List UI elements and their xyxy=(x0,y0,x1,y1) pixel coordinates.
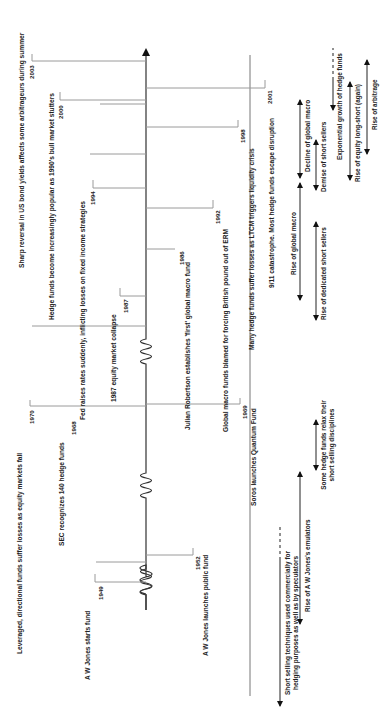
trend-relax-short-selling-label: Some hedge funds relax their short selli… xyxy=(320,395,336,495)
trend-equity-long-short-label: Rise of equity long-short (again) xyxy=(354,84,362,182)
trend-decline-global-macro-label: Decline of global macro xyxy=(304,100,312,172)
trend-rise-arbitrage-label: Rise of arbitrage xyxy=(371,80,379,130)
trend-dedicated-short-sellers-label: Rise of dedicated short sellers xyxy=(320,227,328,320)
trend-arrows xyxy=(0,0,380,720)
trend-jones-emulators-label: Rise of A W Jones's emulators xyxy=(304,519,312,612)
trend-demise-short-sellers-label: Demise of short sellers xyxy=(320,122,328,192)
trend-rise-global-macro-label: Rise of global macro xyxy=(290,212,298,275)
timeline-diagram: A W Jones starts fund 1949 SEC recognize… xyxy=(0,0,380,720)
trend-short-selling-label: Short selling techniques used commercial… xyxy=(284,548,300,698)
trend-exponential-growth-label: Exponential growth of hedge funds xyxy=(336,53,344,160)
